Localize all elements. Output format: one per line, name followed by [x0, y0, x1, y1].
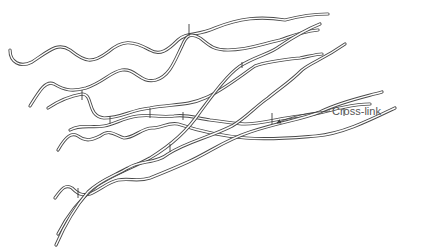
polymer-chains — [10, 14, 395, 245]
chain-strand-core — [56, 44, 345, 245]
chain-strand-outline — [56, 44, 345, 245]
polymer-diagram: Cross-link — [0, 0, 421, 251]
polymer-chain — [56, 44, 345, 245]
cross-link-label: Cross-link — [332, 105, 381, 117]
